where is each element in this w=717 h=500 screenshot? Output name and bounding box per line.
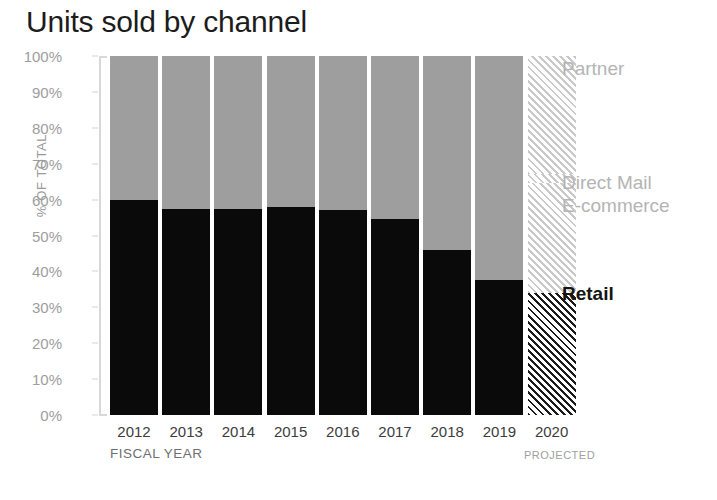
bar-segment-e-commerce[interactable] xyxy=(319,119,367,211)
y-axis-tick-mark xyxy=(92,163,98,164)
bar-segment-retail[interactable] xyxy=(423,250,471,415)
x-axis-tick-label: 2020 xyxy=(522,423,582,440)
bar-segment-direct-mail[interactable] xyxy=(423,131,471,140)
x-axis-tick-label: 2019 xyxy=(469,423,529,440)
bar-segment-e-commerce[interactable] xyxy=(423,140,471,249)
y-axis-tick-mark xyxy=(92,127,98,128)
legend-label-partner[interactable]: Partner xyxy=(562,57,624,81)
bar-segment-e-commerce[interactable] xyxy=(371,119,419,220)
bar-segment-partner[interactable] xyxy=(475,56,523,163)
bar-segment-partner[interactable] xyxy=(214,56,262,118)
bar-segment-direct-mail[interactable] xyxy=(371,110,419,119)
bar-column[interactable] xyxy=(162,56,210,415)
bar-column[interactable] xyxy=(371,56,419,415)
y-axis-tick-mark xyxy=(92,199,98,200)
legend-label-retail[interactable]: Retail xyxy=(562,282,614,306)
x-axis-tick-label: 2012 xyxy=(104,423,164,440)
bar-segment-retail[interactable] xyxy=(267,207,315,415)
x-axis-tick-label: 2016 xyxy=(313,423,373,440)
bar-segment-retail[interactable] xyxy=(162,209,210,415)
legend-label-direct-mail[interactable]: Direct Mail xyxy=(562,171,652,195)
legend-label-e-commerce[interactable]: E-commerce xyxy=(562,194,670,218)
bar-segment-retail[interactable] xyxy=(371,219,419,415)
bar-segment-retail[interactable] xyxy=(214,209,262,415)
bar-column[interactable] xyxy=(267,56,315,415)
bar-segment-retail[interactable] xyxy=(475,280,523,415)
y-axis-tick-mark xyxy=(92,343,98,344)
bar-segment-e-commerce[interactable] xyxy=(214,128,262,209)
y-axis-tick-mark xyxy=(92,56,98,57)
bar-segment-direct-mail[interactable] xyxy=(162,118,210,128)
bar-segment-partner[interactable] xyxy=(110,56,158,115)
x-axis-tick-label: 2018 xyxy=(417,423,477,440)
y-axis-tick-mark xyxy=(92,91,98,92)
bar-segment-direct-mail[interactable] xyxy=(214,118,262,128)
bar-segment-direct-mail[interactable] xyxy=(319,110,367,119)
bar-column[interactable] xyxy=(423,56,471,415)
x-axis-tick-label: 2014 xyxy=(208,423,268,440)
bar-segment-retail[interactable] xyxy=(319,210,367,415)
y-axis-tick-mark xyxy=(92,415,98,416)
bar-segment-partner[interactable] xyxy=(423,56,471,131)
bar-segment-e-commerce[interactable] xyxy=(267,128,315,207)
x-axis-tick-label: 2017 xyxy=(365,423,425,440)
bar-column[interactable] xyxy=(214,56,262,415)
y-axis-tick-mark xyxy=(92,271,98,272)
y-axis-tick-mark xyxy=(92,235,98,236)
bar-column[interactable] xyxy=(110,56,158,415)
bar-segment-retail[interactable] xyxy=(528,293,576,415)
bar-segment-partner[interactable] xyxy=(371,56,419,110)
bar-segment-e-commerce[interactable] xyxy=(475,173,523,281)
bar-segment-e-commerce[interactable] xyxy=(162,128,210,209)
x-axis-tick-label: 2013 xyxy=(156,423,216,440)
y-axis-tick-mark xyxy=(92,379,98,380)
x-axis-tick-label: 2015 xyxy=(261,423,321,440)
chart-root: Units sold by channel % OF TOTAL 100%90%… xyxy=(0,0,717,500)
bar-segment-direct-mail[interactable] xyxy=(475,163,523,173)
bar-segment-retail[interactable] xyxy=(110,200,158,415)
projected-note: PROJECTED xyxy=(524,449,595,461)
bar-column[interactable] xyxy=(528,56,576,415)
bar-segment-partner[interactable] xyxy=(267,56,315,118)
bar-segment-e-commerce[interactable] xyxy=(110,125,158,200)
bar-column[interactable] xyxy=(319,56,367,415)
bar-segment-direct-mail[interactable] xyxy=(267,118,315,128)
bar-segment-partner[interactable] xyxy=(162,56,210,118)
bar-segment-direct-mail[interactable] xyxy=(110,115,158,125)
bar-column[interactable] xyxy=(475,56,523,415)
y-axis-tick-mark xyxy=(92,307,98,308)
bar-segment-partner[interactable] xyxy=(319,56,367,110)
x-axis-title: FISCAL YEAR xyxy=(110,446,203,461)
